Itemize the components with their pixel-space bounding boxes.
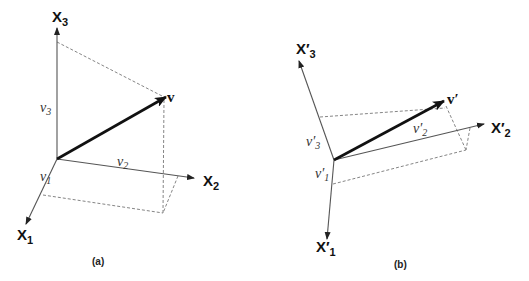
- vector-v: [57, 97, 166, 159]
- component-v3-a: v3: [40, 100, 51, 117]
- vector-v-prime: [334, 101, 444, 160]
- axis-label-x2-a: X2: [203, 172, 219, 192]
- component-v1-b: v′1: [315, 166, 329, 183]
- caption-a: (a): [92, 256, 104, 267]
- panel-a: X3 X2 X1 v v3 v2 v1 (a): [17, 8, 219, 267]
- component-v2-b: v′2: [413, 121, 427, 138]
- caption-b: (b): [394, 259, 407, 270]
- axis-x2-b: [334, 124, 484, 160]
- component-v1-a: v1: [40, 169, 51, 186]
- component-v3-b: v′3: [306, 134, 320, 151]
- axis-label-x3-a: X3: [52, 8, 68, 28]
- coordinate-rotation-diagram: X3 X2 X1 v v3 v2 v1 (a) X′3 X′2 X′1 v′ v…: [0, 0, 529, 281]
- panel-b: X′3 X′2 X′1 v′ v′3 v′2 v′1 (b): [296, 40, 511, 270]
- axis-label-x1-b: X′1: [316, 238, 336, 258]
- vector-label-v-prime: v′: [447, 91, 459, 107]
- axis-label-x3-b: X′3: [296, 40, 316, 60]
- component-v2-a: v2: [117, 154, 128, 171]
- axis-label-x1-a: X1: [17, 226, 33, 246]
- axis-label-x2-b: X′2: [491, 119, 511, 139]
- vector-label-v: v: [167, 89, 175, 105]
